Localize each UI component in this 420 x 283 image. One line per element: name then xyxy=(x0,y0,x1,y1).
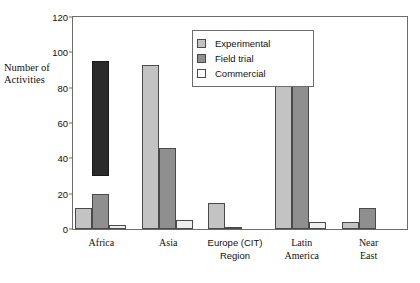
y-tick-label: 80 xyxy=(57,82,68,93)
legend-swatch-icon xyxy=(197,69,206,78)
y-tick-label: 60 xyxy=(57,118,68,129)
bar-chart: Number of Activities 020406080100120 Exp… xyxy=(0,0,420,283)
y-tick-label: 0 xyxy=(63,224,68,235)
bar-experimental xyxy=(275,72,292,229)
bar-commercial xyxy=(109,225,126,229)
bar-experimental xyxy=(342,222,359,229)
bar-experimental xyxy=(142,65,159,229)
bar-group xyxy=(73,17,140,229)
legend-label: Commercial xyxy=(215,68,266,79)
bar-field-trial xyxy=(92,194,109,229)
chart-legend: ExperimentalField trialCommercial xyxy=(192,30,314,87)
bar-experimental xyxy=(208,203,225,230)
y-tick-label: 40 xyxy=(57,153,68,164)
x-tick-label: Asia xyxy=(159,236,177,249)
legend-item: Field trial xyxy=(197,51,307,66)
x-tick-label: Europe (CIT) Region xyxy=(208,236,263,262)
y-tick-label: 100 xyxy=(52,47,68,58)
bar-field-trial xyxy=(359,208,376,229)
legend-label: Experimental xyxy=(215,38,270,49)
x-tick-label: Near East xyxy=(359,236,378,262)
bar-field-trial xyxy=(225,227,242,229)
bar-commercial xyxy=(309,222,326,229)
legend-swatch-icon xyxy=(197,54,206,63)
bar-field-trial xyxy=(159,148,176,229)
x-tick-label: Africa xyxy=(89,236,115,249)
bar-group xyxy=(340,17,407,229)
africa-dark-bar xyxy=(92,61,109,176)
legend-item: Experimental xyxy=(197,36,307,51)
legend-label: Field trial xyxy=(215,53,254,64)
legend-item: Commercial xyxy=(197,66,307,81)
x-tick-label: Latin America xyxy=(285,236,319,262)
legend-swatch-icon xyxy=(197,39,206,48)
bar-commercial xyxy=(176,220,193,229)
bar-experimental xyxy=(75,208,92,229)
y-tick-label: 20 xyxy=(57,188,68,199)
y-tick-label: 120 xyxy=(52,12,68,23)
